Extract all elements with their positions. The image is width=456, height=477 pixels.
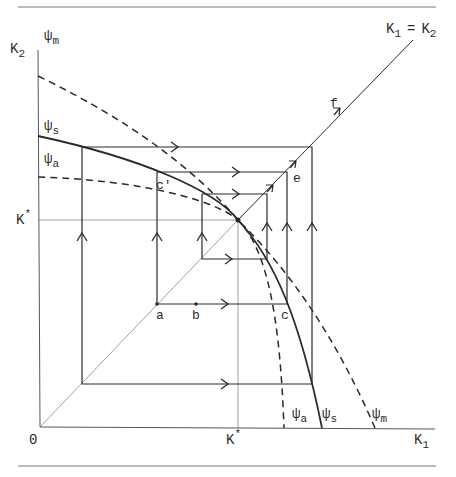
curve-psi-m bbox=[38, 76, 375, 428]
svg-text:K2: K2 bbox=[10, 41, 25, 60]
svg-text:K1=K2: K1=K2 bbox=[386, 21, 436, 40]
label-c: c bbox=[281, 308, 289, 323]
label-c-prime: c' bbox=[156, 178, 172, 193]
outer-path bbox=[82, 146, 312, 384]
svg-text:K1: K1 bbox=[414, 432, 429, 451]
psi-a-bottom-label: ψ bbox=[292, 406, 300, 422]
phase-diagram: K2 ψm ψs ψa K* c' e f a b c K1=K2 ψa ψs … bbox=[0, 0, 456, 477]
point-b bbox=[194, 302, 198, 306]
label-e: e bbox=[293, 171, 301, 186]
svg-text:ψa: ψa bbox=[292, 406, 307, 425]
svg-text:ψs: ψs bbox=[44, 118, 59, 137]
psi-m-bottom-label: ψ bbox=[372, 406, 380, 422]
svg-text:K*: K* bbox=[226, 428, 241, 448]
psi-m-label: ψ bbox=[44, 28, 52, 44]
psi-a-label: ψ bbox=[44, 151, 52, 167]
label-b: b bbox=[192, 308, 200, 323]
origin-label: 0 bbox=[29, 432, 37, 448]
point-a bbox=[155, 302, 159, 306]
diagonal-k1-eq-k2 bbox=[40, 220, 238, 427]
equilibrium-point bbox=[236, 218, 241, 223]
psi-s-label: ψ bbox=[44, 118, 52, 134]
svg-text:ψs: ψs bbox=[322, 406, 337, 425]
svg-text:ψm: ψm bbox=[44, 28, 59, 47]
diagonal-k1-eq-k2-upper bbox=[238, 40, 413, 220]
arrow-diagonal-icon bbox=[266, 185, 273, 192]
svg-text:ψm: ψm bbox=[372, 406, 387, 425]
svg-text:ψa: ψa bbox=[44, 151, 59, 170]
label-a: a bbox=[156, 308, 164, 323]
svg-text:K*: K* bbox=[16, 208, 31, 228]
psi-s-bottom-label: ψ bbox=[322, 406, 330, 422]
label-f: f bbox=[330, 96, 338, 111]
y-axis bbox=[38, 50, 40, 427]
